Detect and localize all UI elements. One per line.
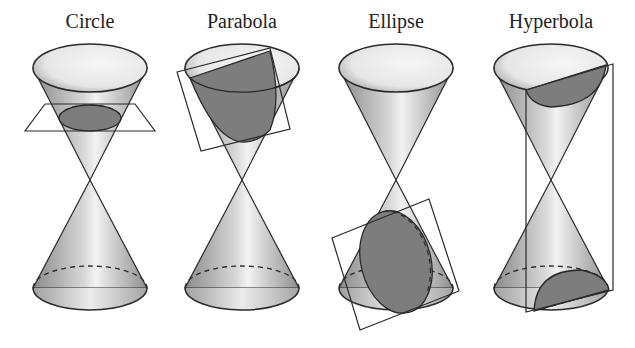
hyperbola-cone (494, 44, 613, 312)
ellipse-cone (332, 44, 459, 330)
parabola-cone (177, 44, 299, 310)
conic-sections-diagram (0, 0, 635, 348)
circle-cone (25, 44, 155, 310)
